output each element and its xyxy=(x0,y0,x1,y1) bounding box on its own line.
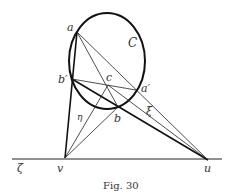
label-a: a xyxy=(67,21,74,34)
label-xi: ξ xyxy=(146,105,153,118)
label-b-prime: b′ xyxy=(58,73,68,86)
label-zeta: ζ xyxy=(17,162,24,175)
line-a-v xyxy=(65,32,77,158)
line-xi xyxy=(108,85,208,160)
label-C: C xyxy=(128,36,137,50)
label-b: b xyxy=(114,112,121,125)
label-c: c xyxy=(106,71,112,84)
label-eta: η xyxy=(77,112,83,122)
line-a-b xyxy=(77,32,118,107)
label-v: v xyxy=(57,162,64,175)
line-bprime-u xyxy=(72,79,208,160)
label-a-prime: a′ xyxy=(141,82,151,95)
line-a-u xyxy=(77,32,208,160)
label-u: u xyxy=(204,162,211,175)
geometry-diagram: a C b′ c a′ b η ξ ζ v u Fig. 30 xyxy=(0,0,234,196)
figure-caption: Fig. 30 xyxy=(103,180,139,191)
